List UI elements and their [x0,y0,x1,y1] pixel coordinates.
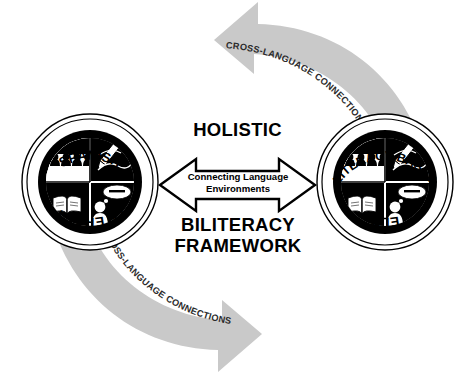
heading-holistic: HOLISTIC [160,119,315,141]
arrow-caption-line2: Environments [178,183,298,195]
heading-biliteracy-framework: BILITERACY FRAMEWORK [158,214,318,256]
heading-biliteracy: BILITERACY [158,214,318,235]
arrow-caption: Connecting Language Environments [178,171,298,194]
holistic-biliteracy-framework-diagram: CROSS-LANGUAGE CONNECTIONS CROSS-LANGUAG… [0,0,475,374]
badge-bottom-label: ELD [370,213,401,229]
arrow-caption-line1: Connecting Language [178,171,298,183]
heading-framework: FRAMEWORK [158,235,318,256]
